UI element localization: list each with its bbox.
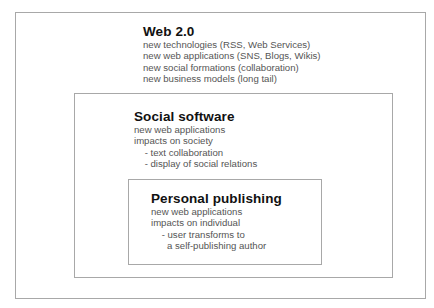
web20-line: new web applications (SNS, Blogs, Wikis) (143, 50, 321, 61)
social-software-title: Social software (134, 109, 257, 124)
personal-publishing-line: a self-publishing author (151, 240, 282, 251)
social-software-line: - text collaboration (134, 147, 257, 158)
web20-line: new social formations (collaboration) (143, 62, 321, 73)
social-software-text-block: Social software new web applications imp… (134, 109, 257, 170)
personal-publishing-title: Personal publishing (151, 191, 282, 206)
social-software-line: new web applications (134, 124, 257, 135)
personal-publishing-line: - user transforms to (151, 229, 282, 240)
social-software-line: - display of social relations (134, 158, 257, 169)
personal-publishing-text-block: Personal publishing new web applications… (151, 191, 282, 252)
personal-publishing-line: impacts on individual (151, 217, 282, 228)
web20-text-block: Web 2.0 new technologies (RSS, Web Servi… (143, 24, 321, 85)
personal-publishing-line: new web applications (151, 206, 282, 217)
web20-line: new technologies (RSS, Web Services) (143, 39, 321, 50)
web20-title: Web 2.0 (143, 24, 321, 39)
web20-line: new business models (long tail) (143, 73, 321, 84)
social-software-line: impacts on society (134, 135, 257, 146)
